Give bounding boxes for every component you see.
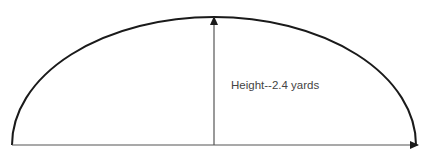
height-label: Height--2.4 yards	[231, 79, 319, 91]
arch-diagram: Height--2.4 yards	[0, 0, 426, 159]
arch-svg	[0, 0, 426, 159]
